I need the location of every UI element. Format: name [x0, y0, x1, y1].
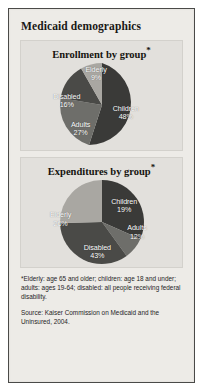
footnote-marker: *: [146, 45, 151, 55]
infographic-frame: Medicaid demographics Enrollment by grou…: [8, 8, 195, 383]
page-title: Medicaid demographics: [21, 20, 183, 33]
chart-title-enrollment: Enrollment by group*: [21, 46, 182, 60]
chart-title-enrollment-text: Enrollment by group: [52, 48, 146, 59]
chart-panel-enrollment: Enrollment by group* Children 48% Adu: [20, 40, 183, 151]
footnote-marker-2: *: [151, 162, 156, 172]
footnote-text: *Elderly: age 65 and older; children: ag…: [21, 274, 182, 302]
pie-expenditures-svg: [49, 179, 155, 265]
chart-title-expenditures-text: Expenditures by group: [48, 165, 151, 176]
infographic-body: Medicaid demographics Enrollment by grou…: [11, 11, 192, 380]
pie-chart-expenditures: Children 19% Adults 12% Disabled 43% Eld…: [21, 179, 182, 265]
source-text: Source: Kaiser Commission on Medicaid an…: [21, 308, 182, 327]
pie-chart-enrollment: Children 48% Adults 27% Disabled 16% Eld…: [21, 62, 182, 148]
pie-enrollment-svg: [49, 62, 155, 148]
chart-title-expenditures: Expenditures by group*: [21, 163, 182, 177]
chart-panel-expenditures: Expenditures by group* Children 19% A: [20, 157, 183, 268]
pie-slice-elderly-2: [59, 180, 101, 223]
